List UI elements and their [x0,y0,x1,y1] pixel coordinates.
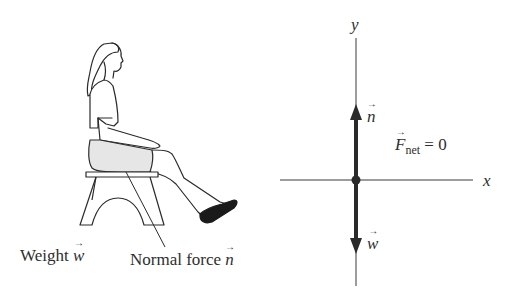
normal-force-arrowhead [350,104,362,120]
net-force-equation: Fnet = 0 [395,136,447,153]
stool [80,172,164,225]
shirt [90,80,118,128]
normal-force-label: Normal force n [130,251,234,268]
normal-force-label-text: Normal force [130,250,225,269]
normal-force-symbol: n [225,251,234,268]
weight-vector-label: w [367,235,378,252]
woman-figure [87,43,237,223]
normal-vector-symbol: n [367,108,376,125]
shoe [200,200,237,223]
x-axis-label: x [483,172,491,189]
y-axis-label: y [351,16,359,33]
skirt [89,140,153,172]
net-force-rhs: = 0 [420,135,447,154]
weight-symbol: w [73,247,84,264]
particle-dot [352,176,361,185]
net-force-symbol: F [395,136,405,153]
weight-label-text: Weight [20,246,73,265]
net-force-subscript: net [405,143,420,157]
stool-legs [80,177,164,225]
weight-vector-symbol: w [367,235,378,252]
weight-label: Weight w [20,247,84,264]
weight-arrowhead [350,238,362,254]
normal-vector-label: n [367,108,376,125]
stool-seat [86,172,158,177]
